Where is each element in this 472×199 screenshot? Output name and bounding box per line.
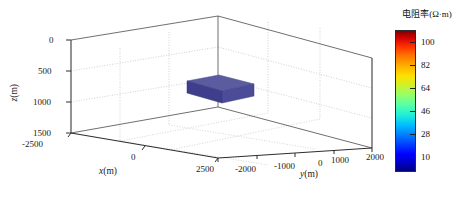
grid-back-right-wall [218,22,372,119]
colorbar-label-28: 28 [421,130,430,139]
x-axis-title: x(m) [99,167,117,177]
colorbar-tick-64 [410,88,416,89]
x-tick-label-2500: 2500 [196,165,214,174]
colorbar-label-100: 100 [421,38,435,47]
colorbar-tick-10 [410,157,416,158]
plot-3d-axes: 0 500 1000 1500 z(m) -2500 0 2500 x(m) -… [0,0,390,199]
y-axis-unit: (m) [304,169,318,179]
colorbar-label-82: 82 [421,61,430,70]
colorbar-tick-28 [410,134,416,135]
z-axis-title-text: z [9,98,19,102]
colorbar: 电阻率(Ω·m) 100 82 64 46 28 10 [382,0,472,199]
anomaly-block [187,75,254,103]
z-axis-unit: (m) [9,84,19,98]
x-axis-ticks [68,133,218,162]
z-axis-ticks [66,40,71,133]
y-axis-title: y(m) [300,170,318,180]
z-tick-label-1500: 1500 [33,129,51,138]
colorbar-label-64: 64 [421,84,430,93]
x-tick-label-0: 0 [131,153,136,162]
colorbar-title: 电阻率(Ω·m) [382,10,472,20]
plot-3d-canvas [0,0,390,199]
y-tick-label-1000: 1000 [331,156,349,165]
colorbar-label-46: 46 [421,107,430,116]
colorbar-tick-46 [410,111,416,112]
colorbar-gradient [395,30,416,172]
z-axis-title: z(m) [10,84,20,101]
z-tick-label-1000: 1000 [33,98,51,107]
y-tick-label-neg1000: -1000 [274,162,295,171]
colorbar-tick-100 [410,42,416,43]
colorbar-label-10: 10 [421,153,430,162]
colorbar-tick-82 [410,65,416,66]
box-front-axis-edges [71,133,372,158]
figure-3d-resistivity-model: 0 500 1000 1500 z(m) -2500 0 2500 x(m) -… [0,0,472,199]
y-tick-label-0: 0 [318,159,323,168]
x-axis-unit: (m) [103,166,117,176]
z-tick-label-0: 0 [49,36,54,45]
z-tick-label-500: 500 [38,67,52,76]
y-tick-label-neg2000: -2000 [235,165,256,174]
x-tick-label-neg2500: -2500 [22,140,43,149]
grid-floor [120,113,320,165]
